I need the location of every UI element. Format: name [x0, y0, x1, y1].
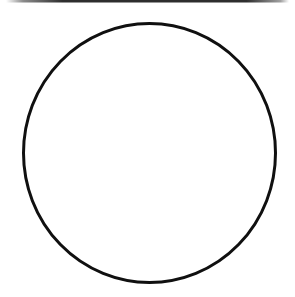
drawing-svg	[0, 0, 295, 297]
circle-shape	[24, 24, 276, 283]
page-canvas	[0, 0, 295, 297]
top-scan-line	[6, 0, 289, 3]
